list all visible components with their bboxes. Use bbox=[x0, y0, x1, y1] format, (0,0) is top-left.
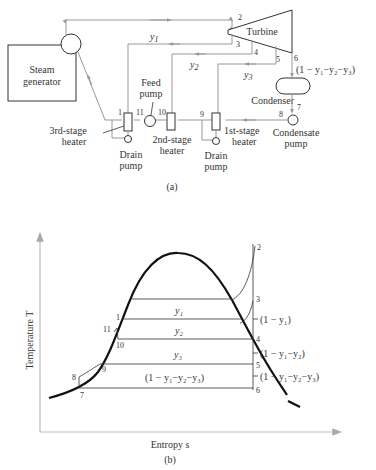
svg-text:1st-stage: 1st-stage bbox=[224, 125, 260, 136]
svg-text:generator: generator bbox=[23, 76, 61, 87]
svg-text:7: 7 bbox=[297, 103, 301, 112]
svg-text:y3: y3 bbox=[243, 69, 252, 82]
svg-text:10: 10 bbox=[158, 108, 166, 117]
svg-text:3rd-stage: 3rd-stage bbox=[49, 125, 87, 136]
svg-text:(1 − y₁−y₂−y₃): (1 − y₁−y₂−y₃) bbox=[260, 371, 319, 383]
svg-text:y1: y1 bbox=[149, 31, 158, 44]
svg-text:2: 2 bbox=[257, 243, 261, 252]
svg-text:(1 − y₁−y₂): (1 − y₁−y₂) bbox=[260, 348, 305, 360]
svg-text:7: 7 bbox=[80, 391, 84, 400]
x-axis-label: Entropy s bbox=[151, 439, 190, 450]
svg-text:Drain: Drain bbox=[120, 149, 143, 160]
svg-text:y2: y2 bbox=[189, 59, 198, 72]
svg-text:8: 8 bbox=[279, 110, 283, 119]
condensate-pump-icon bbox=[288, 115, 298, 125]
svg-text:2: 2 bbox=[238, 13, 242, 22]
svg-text:10: 10 bbox=[116, 341, 124, 350]
drain-pump-left-icon bbox=[125, 136, 132, 143]
regenerative-rankine-figure: Steam generator Turbine 2 3 4 5 6 y1 y2 … bbox=[0, 0, 376, 470]
exhaust-fraction-label: (1 − y₁−y₂−y₃) bbox=[296, 64, 355, 76]
svg-text:1: 1 bbox=[116, 313, 120, 322]
steam-generator-label: Steam bbox=[30, 64, 55, 75]
svg-text:3: 3 bbox=[256, 295, 260, 304]
svg-text:2nd-stage: 2nd-stage bbox=[153, 134, 192, 145]
svg-text:y₃: y₃ bbox=[173, 349, 182, 360]
svg-text:4: 4 bbox=[256, 335, 260, 344]
svg-text:y₁: y₁ bbox=[174, 305, 183, 316]
svg-text:heater: heater bbox=[232, 136, 257, 147]
heater-3rd-stage-icon bbox=[124, 113, 132, 131]
svg-text:Condensate: Condensate bbox=[273, 127, 320, 138]
svg-text:1: 1 bbox=[118, 108, 122, 117]
svg-text:Feed: Feed bbox=[141, 77, 160, 88]
svg-text:6: 6 bbox=[256, 386, 260, 395]
ts-diagram-b: Temperature T Entropy s (b) 2 3 (1 − y₁)… bbox=[24, 234, 340, 466]
condenser-label: Condenser bbox=[251, 95, 294, 106]
boiler-drum-icon bbox=[61, 34, 81, 54]
svg-text:11: 11 bbox=[103, 325, 111, 334]
svg-text:(1 − y₁): (1 − y₁) bbox=[260, 314, 291, 326]
schematic-a: Steam generator Turbine 2 3 4 5 6 y1 y2 … bbox=[8, 10, 355, 193]
svg-text:4: 4 bbox=[254, 48, 258, 57]
caption-a: (a) bbox=[166, 181, 177, 193]
svg-text:9: 9 bbox=[102, 365, 106, 374]
svg-text:5: 5 bbox=[276, 55, 280, 64]
svg-text:pump: pump bbox=[285, 138, 308, 149]
svg-text:pump: pump bbox=[140, 88, 163, 99]
svg-text:y₂: y₂ bbox=[174, 325, 183, 336]
svg-text:heater: heater bbox=[160, 145, 185, 156]
feed-pump-icon bbox=[145, 116, 156, 127]
svg-text:(1 − y₁−y₂−y₃): (1 − y₁−y₂−y₃) bbox=[145, 372, 204, 384]
svg-text:heater: heater bbox=[62, 136, 87, 147]
svg-text:6: 6 bbox=[294, 54, 298, 63]
svg-text:5: 5 bbox=[256, 361, 260, 370]
svg-text:3: 3 bbox=[236, 40, 240, 49]
svg-text:pump: pump bbox=[205, 161, 228, 172]
turbine-label: Turbine bbox=[246, 26, 278, 37]
svg-text:8: 8 bbox=[72, 373, 76, 382]
svg-text:pump: pump bbox=[120, 160, 143, 171]
drain-pump-right-icon bbox=[213, 138, 220, 145]
heater-2nd-stage-icon bbox=[167, 113, 175, 130]
condenser-icon bbox=[276, 78, 310, 94]
svg-text:9: 9 bbox=[200, 110, 204, 119]
y-axis-label: Temperature T bbox=[24, 311, 35, 370]
heater-1st-stage-icon bbox=[212, 113, 220, 130]
svg-text:11: 11 bbox=[136, 108, 144, 117]
caption-b: (b) bbox=[164, 454, 176, 466]
svg-text:Drain: Drain bbox=[205, 150, 228, 161]
